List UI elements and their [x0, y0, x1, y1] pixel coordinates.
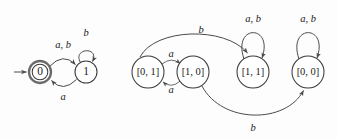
edge-label-a-bottom: a: [60, 91, 65, 102]
transition-01-to-11-b: b: [140, 24, 248, 57]
state-1-0[interactable]: [1, 0]: [177, 56, 209, 88]
state-0-label: 0: [37, 65, 43, 77]
transition-01-to-10-a: a: [162, 48, 180, 64]
edge-label-b-selfloop: b: [83, 27, 88, 38]
finite-automata-diagram: a, b a b 0 1: [0, 0, 337, 139]
transition-00-self-loop: a, b: [297, 13, 319, 59]
state-1-0-label: [1, 0]: [182, 66, 205, 77]
state-1-label: 1: [83, 65, 89, 77]
edge-label-a-bottom: a: [168, 84, 173, 95]
transition-10-to-01-a: a: [163, 81, 180, 95]
state-1-1[interactable]: [1, 1]: [237, 56, 269, 88]
transition-10-to-00-b: b: [202, 86, 304, 133]
transition-0-to-1: a, b: [50, 39, 76, 66]
left-automaton: a, b a b 0 1: [14, 27, 97, 102]
right-automaton: b b a a a, b: [132, 13, 324, 133]
state-0[interactable]: 0: [29, 61, 51, 83]
edge-label-a-top: a: [168, 48, 173, 59]
edge-label-ab-selfloop-00: a, b: [300, 13, 316, 24]
state-0-1[interactable]: [0, 1]: [132, 56, 164, 88]
transition-11-self-loop: a, b: [242, 13, 264, 59]
edge-label-ab-top: a, b: [55, 39, 71, 50]
figure-canvas: a, b a b 0 1: [0, 0, 337, 139]
edge-label-ab-selfloop-11: a, b: [245, 13, 261, 24]
state-1-1-label: [1, 1]: [242, 66, 265, 77]
transition-1-self-loop: b: [79, 27, 94, 62]
state-0-1-label: [0, 1]: [137, 66, 160, 77]
state-1[interactable]: 1: [75, 61, 97, 83]
edge-label-b-long-bottom: b: [250, 122, 255, 133]
transition-1-to-0: a: [52, 80, 77, 103]
state-0-0-label: [0, 0]: [297, 66, 320, 77]
state-0-0[interactable]: [0, 0]: [292, 56, 324, 88]
edge-label-b-long-top: b: [198, 24, 203, 35]
